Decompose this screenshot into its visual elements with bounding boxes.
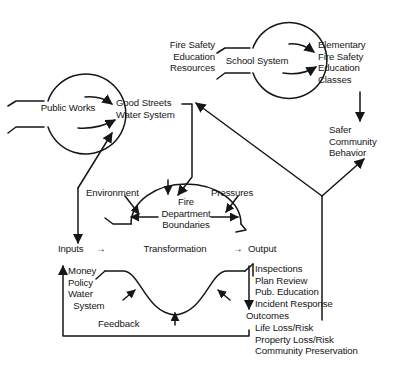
arrow-into-publicworks-lower (78, 120, 115, 128)
node-label-elementary-fire-safety-education-classes: Elementary Fire Safety Education Classes (318, 39, 413, 85)
systems-diagram: Public Works Good Streets Water System F… (0, 0, 417, 377)
arrow-school-to-elementary-upper (289, 44, 314, 52)
public-works-output-stub (8, 127, 44, 133)
fire-dept-left-foot (105, 218, 131, 224)
inputs-arrow-glyph-icon: → (96, 243, 110, 255)
node-label-feedback: Feedback (98, 318, 164, 330)
node-label-fire-safety-education-resources: Fire Safety Education Resources (135, 39, 215, 74)
arrow-inputs-to-watersystem (78, 133, 112, 188)
node-label-good-streets-water-system: Good Streets Water System (116, 97, 196, 120)
arrow-outcomes-to-safer (322, 159, 364, 196)
node-label-outcomes: Outcomes (246, 310, 316, 322)
node-label-public-works: Public Works (31, 102, 105, 114)
node-label-output: Output (248, 243, 298, 255)
node-label-transformation: Transformation (125, 243, 225, 255)
node-label-inputs: Inputs (58, 243, 98, 255)
node-label-fire-department-boundaries: Fire Department Boundaries (146, 196, 226, 231)
output-arrow-glyph-icon: → (233, 243, 247, 255)
arrow-school-to-elementary-lower (283, 67, 316, 74)
list-outcome-items: Life Loss/Risk Property Loss/Risk Commun… (255, 322, 415, 357)
list-input-items: Money Policy Water System (68, 265, 130, 311)
node-label-school-system: School System (222, 55, 292, 67)
arrow-bowl-right (218, 290, 230, 300)
school-system-output-stub (217, 73, 250, 79)
arrow-outcomes-to-resources (196, 103, 322, 196)
public-works-ring (48, 74, 126, 154)
school-system-input-stub (217, 48, 250, 53)
node-label-safer-community-behavior: Safer Community Behavior (329, 124, 414, 159)
fire-dept-right-foot (236, 224, 246, 232)
list-output-items: Inspections Plan Review Pub. Education I… (255, 263, 385, 309)
